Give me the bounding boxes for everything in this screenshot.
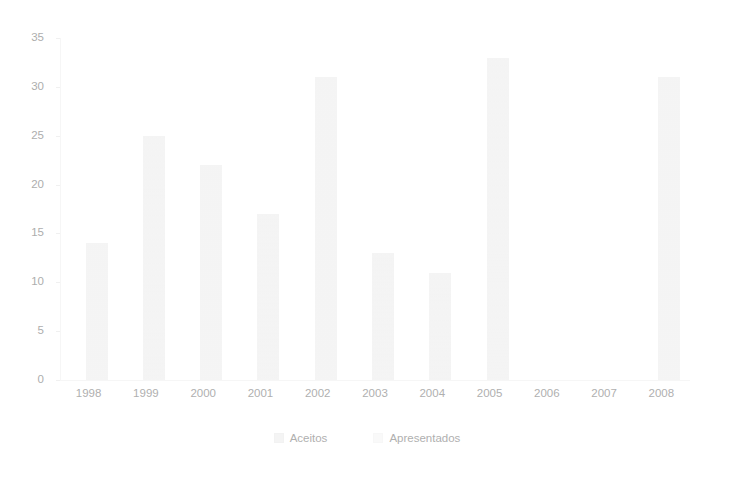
bar-group bbox=[461, 38, 518, 380]
x-tick-label-2003: 2003 bbox=[345, 386, 405, 401]
y-tick-label: 10 bbox=[4, 277, 44, 289]
bar-apresentados-2004[interactable] bbox=[429, 273, 451, 380]
legend-swatch-icon bbox=[373, 433, 383, 443]
y-tick-label: 35 bbox=[4, 32, 44, 44]
bar-apresentados-2005[interactable] bbox=[487, 58, 509, 380]
legend-label: Apresentados bbox=[389, 432, 460, 444]
bar-group bbox=[117, 38, 174, 380]
y-tick-mark bbox=[56, 233, 60, 234]
chart-legend: AceitosApresentados bbox=[0, 432, 734, 444]
bar-apresentados-2000[interactable] bbox=[200, 165, 222, 380]
y-tick-mark bbox=[56, 136, 60, 137]
bar-group bbox=[575, 38, 632, 380]
bar-group bbox=[346, 38, 403, 380]
legend-label: Aceitos bbox=[290, 432, 328, 444]
chart-figure: 05101520253035 1998199920002001200220032… bbox=[0, 0, 734, 477]
bar-apresentados-1998[interactable] bbox=[86, 243, 108, 380]
y-tick-label: 30 bbox=[4, 81, 44, 93]
y-tick-mark bbox=[56, 87, 60, 88]
bar-group bbox=[232, 38, 289, 380]
bar-group bbox=[633, 38, 690, 380]
x-tick-label-2001: 2001 bbox=[230, 386, 290, 401]
legend-item-aceitos[interactable]: Aceitos bbox=[274, 432, 328, 444]
x-tick-label-2007: 2007 bbox=[574, 386, 634, 401]
y-tick-label: 5 bbox=[4, 325, 44, 337]
bar-apresentados-2003[interactable] bbox=[372, 253, 394, 380]
plot-area bbox=[60, 38, 690, 380]
y-axis-labels: 05101520253035 bbox=[0, 38, 52, 380]
x-axis-labels: 1998199920002001200220032004200520062007… bbox=[60, 386, 690, 406]
y-tick-mark bbox=[56, 185, 60, 186]
legend-item-apresentados[interactable]: Apresentados bbox=[373, 432, 460, 444]
x-tick-label-2005: 2005 bbox=[460, 386, 520, 401]
bar-group bbox=[518, 38, 575, 380]
x-tick-label-2004: 2004 bbox=[402, 386, 462, 401]
y-tick-label: 25 bbox=[4, 130, 44, 142]
y-tick-mark bbox=[56, 380, 60, 381]
bar-apresentados-2008[interactable] bbox=[658, 77, 680, 380]
x-tick-label-1999: 1999 bbox=[116, 386, 176, 401]
y-tick-mark bbox=[56, 331, 60, 332]
x-tick-label-2002: 2002 bbox=[288, 386, 348, 401]
x-axis-line bbox=[60, 380, 690, 381]
bar-apresentados-2002[interactable] bbox=[315, 77, 337, 380]
y-tick-label: 0 bbox=[4, 374, 44, 386]
bar-group bbox=[175, 38, 232, 380]
legend-swatch-icon bbox=[274, 433, 284, 443]
x-tick-label-1998: 1998 bbox=[59, 386, 119, 401]
y-tick-mark bbox=[56, 282, 60, 283]
y-tick-mark bbox=[56, 38, 60, 39]
bar-series-container bbox=[60, 38, 690, 380]
bar-group bbox=[404, 38, 461, 380]
x-tick-label-2006: 2006 bbox=[517, 386, 577, 401]
bar-apresentados-1999[interactable] bbox=[143, 136, 165, 380]
bar-group bbox=[289, 38, 346, 380]
bar-apresentados-2001[interactable] bbox=[257, 214, 279, 380]
x-tick-label-2000: 2000 bbox=[173, 386, 233, 401]
bar-group bbox=[60, 38, 117, 380]
y-tick-label: 20 bbox=[4, 179, 44, 191]
x-tick-label-2008: 2008 bbox=[631, 386, 691, 401]
y-tick-label: 15 bbox=[4, 228, 44, 240]
